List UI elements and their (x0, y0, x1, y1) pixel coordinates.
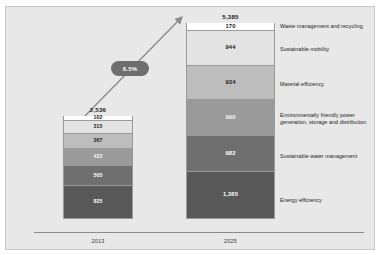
segment-value: 990 (226, 115, 236, 121)
x-axis-tick-2025: 2025 (186, 238, 275, 244)
chart-root: 6.5% 2,536 102 315 367 422 505 (0, 0, 380, 255)
segment-sustainable-water-management[interactable]: 982 (186, 136, 275, 172)
plot-area: 6.5% 2,536 102 315 367 422 505 (6, 7, 374, 249)
segment-waste-management-and-recycling[interactable]: 170 (186, 23, 275, 31)
segment-value: 422 (94, 154, 103, 159)
segment-value: 934 (226, 80, 236, 86)
segment-value: 367 (94, 138, 103, 143)
segment-sustainable-water-management[interactable]: 505 (63, 166, 133, 186)
x-axis-tick-2013: 2013 (63, 238, 133, 244)
legend: Waste management and recycling Sustainab… (280, 7, 375, 249)
segment-sustainable-mobility[interactable]: 315 (63, 121, 133, 134)
segment-value: 982 (226, 151, 236, 157)
bar-2013[interactable]: 2,536 102 315 367 422 505 825 (63, 116, 133, 219)
segment-environmentally-friendly-power[interactable]: 990 (186, 100, 275, 136)
bar-total-2013: 2,536 (63, 106, 133, 113)
segment-environmentally-friendly-power[interactable]: 422 (63, 149, 133, 166)
segment-value: 825 (94, 199, 103, 204)
segment-sustainable-mobility[interactable]: 944 (186, 31, 275, 66)
legend-item-environmentally-friendly-power[interactable]: Environmentally friendly power generatio… (280, 112, 375, 127)
chart-panel: 6.5% 2,536 102 315 367 422 505 (5, 6, 375, 250)
segment-value: 944 (226, 45, 236, 51)
legend-item-sustainable-water-management[interactable]: Sustainable water management (280, 153, 375, 160)
legend-item-sustainable-mobility[interactable]: Sustainable mobility (280, 46, 375, 53)
legend-item-waste-management-and-recycling[interactable]: Waste management and recycling (280, 23, 375, 30)
cagr-value: 6.5% (123, 66, 137, 72)
bar-2025[interactable]: 5,385 170 944 934 990 982 1,365 (186, 23, 275, 219)
legend-item-energy-efficiency[interactable]: Energy efficiency (280, 197, 375, 204)
segment-value: 505 (94, 173, 103, 178)
segment-energy-efficiency[interactable]: 825 (63, 186, 133, 219)
segment-value: 315 (94, 124, 103, 129)
segment-value: 170 (226, 24, 236, 30)
segment-value: 102 (94, 115, 103, 120)
segment-energy-efficiency[interactable]: 1,365 (186, 172, 275, 219)
cagr-badge: 6.5% (111, 61, 149, 76)
legend-item-material-efficiency[interactable]: Material efficiency (280, 81, 375, 88)
segment-material-efficiency[interactable]: 934 (186, 66, 275, 100)
segment-material-efficiency[interactable]: 367 (63, 134, 133, 149)
bar-total-2025: 5,385 (186, 13, 275, 20)
segment-value: 1,365 (223, 192, 238, 198)
